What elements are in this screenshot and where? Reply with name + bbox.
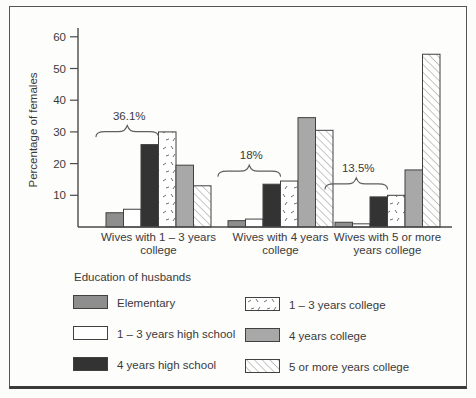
y-tick-label: 10: [53, 189, 66, 201]
legend-label-4-years-college: 4 years college: [289, 330, 366, 342]
annotation-label-3: 13.5%: [342, 162, 375, 174]
bar-group1-series2: [124, 209, 142, 227]
legend-label-5-or-more-years-college: 5 or more years college: [289, 361, 409, 373]
bar-chart: 102030405060Percentage of femalesWives w…: [0, 0, 476, 268]
legend-swatch-4-years-college-icon: [245, 328, 281, 343]
legend-item-4-years-college: 4 years college: [245, 328, 366, 343]
y-tick-label: 60: [53, 31, 66, 43]
legend-swatch-5-or-more-years-college-icon: [245, 359, 281, 374]
legend-swatch-rect: [246, 329, 280, 342]
bar-group1-series4: [159, 132, 177, 227]
bar-group3-series3: [370, 197, 388, 227]
legend-swatch-rect: [74, 327, 108, 340]
bar-group1-series3: [141, 145, 159, 227]
legend-item-4-years-high-school: 4 years high school: [73, 357, 216, 372]
bar-group1-series6: [194, 186, 212, 227]
legend-item-5-or-more-years-college: 5 or more years college: [245, 359, 409, 374]
legend-label-elementary: Elementary: [117, 297, 175, 309]
group-label-2: Wives with 4 yearscollege: [233, 231, 329, 256]
legend-item-1-3-years-high-school: 1 – 3 years high school: [73, 326, 235, 341]
legend-swatch-elementary-icon: [73, 295, 109, 310]
brace-3: [325, 178, 388, 189]
figure: 102030405060Percentage of femalesWives w…: [0, 0, 476, 398]
legend-item-1-3-years-college: 1 – 3 years college: [245, 297, 386, 312]
group-label-1: Wives with 1 – 3 yearscollege: [101, 231, 216, 256]
bar-group2-series6: [316, 130, 334, 227]
y-tick-label: 30: [53, 126, 66, 138]
brace-1: [96, 126, 159, 137]
bar-group2-series4: [281, 181, 299, 227]
bar-group1-series1: [106, 213, 124, 227]
bar-group2-series1: [228, 221, 246, 227]
bar-group3-series1: [335, 222, 353, 227]
y-tick-label: 40: [53, 94, 66, 106]
bar-group3-series5: [405, 170, 423, 227]
y-tick-label: 20: [53, 158, 66, 170]
bar-group2-series2: [246, 219, 264, 227]
group-label-3: Wives with 5 or moreyears college: [334, 231, 441, 256]
bar-group3-series4: [388, 195, 406, 227]
y-tick-label: 50: [53, 63, 66, 75]
legend-swatch-4-years-high-school-icon: [73, 357, 109, 372]
legend-label-4-years-high-school: 4 years high school: [117, 359, 216, 371]
legend-item-elementary: Elementary: [73, 295, 175, 310]
legend-swatch-rect: [74, 296, 108, 309]
chart-root: 102030405060Percentage of femalesWives w…: [27, 28, 452, 256]
legend-label-1-3-years-college: 1 – 3 years college: [289, 299, 386, 311]
bar-group3-series6: [423, 54, 441, 227]
legend-swatch-rect: [246, 360, 280, 373]
legend-label-1-3-years-high-school: 1 – 3 years high school: [117, 328, 235, 340]
bar-group2-series5: [298, 118, 316, 227]
bar-group2-series3: [263, 184, 281, 227]
brace-2: [218, 165, 281, 176]
annotation-label-1: 36.1%: [113, 110, 146, 122]
y-axis-title: Percentage of females: [27, 72, 39, 187]
legend-swatch-rect: [246, 298, 280, 311]
annotation-label-2: 18%: [240, 149, 263, 161]
legend-swatch-1-3-years-college-icon: [245, 297, 281, 312]
legend-swatch-rect: [74, 358, 108, 371]
bar-group1-series5: [176, 165, 194, 227]
legend-title: Education of husbands: [74, 271, 191, 283]
legend-swatch-1-3-years-high-school-icon: [73, 326, 109, 341]
